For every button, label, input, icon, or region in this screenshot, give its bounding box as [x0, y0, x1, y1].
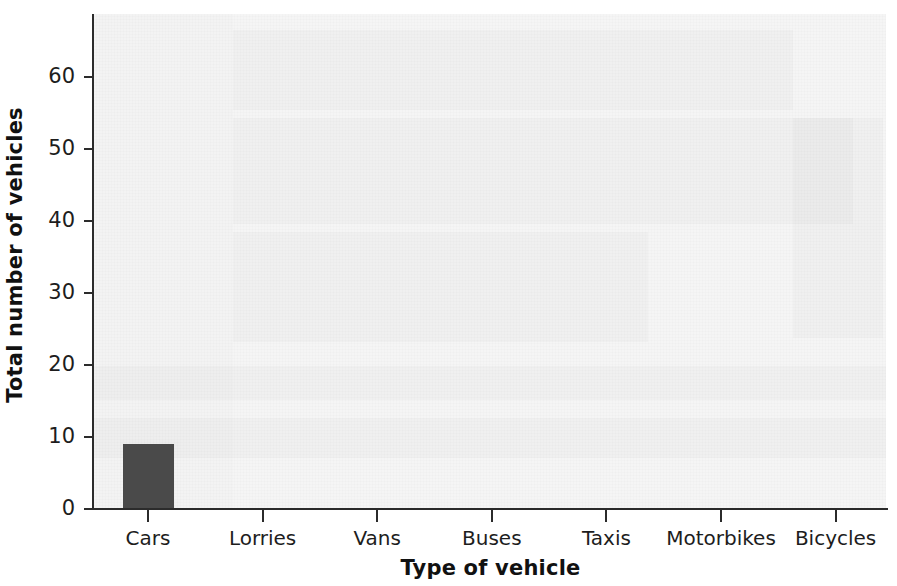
x-axis-tick	[147, 510, 149, 522]
y-axis-tick	[84, 436, 93, 438]
x-axis-tick	[376, 510, 378, 522]
scan-bleed-artifact	[233, 232, 648, 342]
x-axis-tick-label: Motorbikes	[666, 527, 776, 549]
y-axis-title-text: Total number of vehicles	[3, 107, 27, 403]
y-axis-tick	[84, 364, 93, 366]
x-axis-tick-label: Lorries	[229, 527, 296, 549]
x-axis-tick-label: Bicycles	[795, 527, 876, 549]
scan-bleed-artifact	[93, 366, 886, 400]
y-axis-tick	[84, 148, 93, 150]
x-axis-tick-label: Taxis	[582, 527, 631, 549]
x-axis-tick	[720, 510, 722, 522]
x-axis-tick	[835, 510, 837, 522]
x-axis-tick	[491, 510, 493, 522]
y-axis-title: Total number of vehicles	[0, 0, 30, 509]
scan-bleed-artifact	[93, 418, 886, 458]
scan-bleed-artifact	[233, 30, 793, 110]
y-axis-tick	[84, 220, 93, 222]
x-axis-tick-label: Vans	[353, 527, 400, 549]
scan-bleed-artifact	[93, 14, 233, 509]
bar-chart: 0102030405060 CarsLorriesVansBusesTaxisM…	[0, 0, 897, 586]
y-axis-tick	[84, 508, 93, 510]
x-axis-title: Type of vehicle	[93, 556, 888, 580]
scan-bleed-artifact	[793, 118, 883, 338]
y-axis-tick	[84, 292, 93, 294]
paper-texture	[93, 14, 886, 509]
bar-cars	[123, 444, 174, 509]
x-axis-tick	[605, 510, 607, 522]
x-axis-tick	[262, 510, 264, 522]
plot-area	[93, 14, 886, 509]
y-axis-tick	[84, 76, 93, 78]
scan-bleed-artifact	[233, 118, 853, 224]
x-axis-tick-label: Buses	[462, 527, 522, 549]
x-axis-tick-label: Cars	[126, 527, 171, 549]
